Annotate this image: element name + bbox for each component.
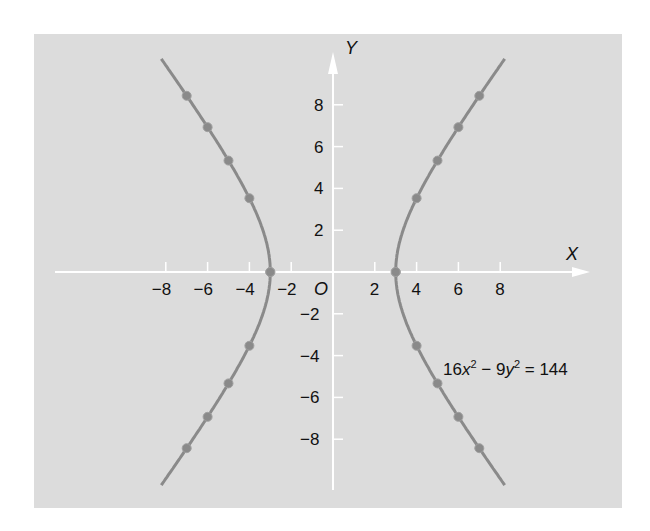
data-point [391,268,400,277]
data-point [475,444,484,453]
data-point [266,268,275,277]
data-point [245,194,254,203]
x-tick-label: 4 [412,280,421,299]
y-axis-label: Y [345,38,359,58]
y-tick-label: 6 [314,138,323,157]
data-point [433,156,442,165]
equation-label: 16x2 − 9y2 = 144 [443,358,568,379]
x-tick-label: 8 [495,280,504,299]
x-tick-label: 6 [453,280,462,299]
data-point [412,194,421,203]
x-tick-label: −6 [194,280,213,299]
x-tick-label: −2 [277,280,296,299]
data-point [412,341,421,350]
x-axis-label: X [565,244,579,264]
y-tick-label: −4 [300,347,319,366]
origin-label: O [314,279,328,299]
y-tick-label: −8 [300,430,319,449]
data-point [454,123,463,132]
data-point [433,379,442,388]
data-point [182,91,191,100]
hyperbola-figure: −8−6−4−224688642−2−4−6−8OXY 16x2 − 9y2 =… [0,0,650,531]
data-point [454,412,463,421]
x-tick-label: −8 [152,280,171,299]
y-tick-label: 8 [314,96,323,115]
data-point [224,156,233,165]
data-point [203,123,212,132]
data-point [182,444,191,453]
data-point [224,379,233,388]
x-tick-label: −4 [235,280,254,299]
chart: −8−6−4−224688642−2−4−6−8OXY 16x2 − 9y2 =… [0,0,650,531]
data-point [203,412,212,421]
y-tick-label: 4 [314,179,323,198]
x-tick-label: 2 [370,280,379,299]
y-tick-label: −6 [300,388,319,407]
data-point [475,91,484,100]
data-point [245,341,254,350]
y-tick-label: −2 [300,305,319,324]
y-tick-label: 2 [314,221,323,240]
